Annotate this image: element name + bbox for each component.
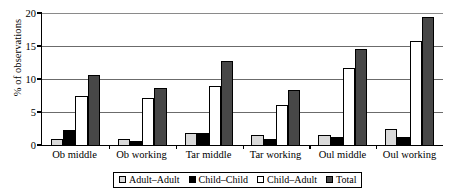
legend-swatch-icon bbox=[326, 176, 333, 183]
chart-legend: Adult–AdultChild–ChildChild–AdultTotal bbox=[113, 172, 362, 188]
y-axis-tick-label: 10 bbox=[26, 74, 37, 85]
legend-swatch-icon bbox=[189, 176, 196, 183]
y-axis-tick-label: 0 bbox=[31, 140, 36, 151]
x-axis-category-label: Oul middle bbox=[309, 149, 376, 160]
legend-label: Child–Child bbox=[199, 174, 248, 185]
x-axis-category-label: Ob middle bbox=[41, 149, 108, 160]
bar-chart: % of observations 05101520 Ob middleOb w… bbox=[0, 0, 449, 196]
x-axis-category-labels: Ob middleOb workingTar middleTar working… bbox=[41, 149, 443, 160]
x-axis-category-label: Oul working bbox=[376, 149, 443, 160]
y-axis-tick-label: 20 bbox=[26, 8, 37, 19]
y-axis-tick-label: 15 bbox=[26, 41, 37, 52]
legend-item[interactable]: Total bbox=[326, 174, 356, 185]
legend-swatch-icon bbox=[257, 176, 264, 183]
legend-item[interactable]: Adult–Adult bbox=[119, 174, 180, 185]
x-axis-category-label: Ob working bbox=[108, 149, 175, 160]
y-axis-title: % of observations bbox=[12, 3, 23, 113]
legend-swatch-icon bbox=[119, 176, 126, 183]
legend-label: Child–Adult bbox=[267, 174, 317, 185]
legend-label: Adult–Adult bbox=[129, 174, 180, 185]
legend-label: Total bbox=[336, 174, 356, 185]
legend-item[interactable]: Child–Adult bbox=[257, 174, 317, 185]
x-axis-category-label: Tar middle bbox=[175, 149, 242, 160]
x-axis-category-label: Tar working bbox=[242, 149, 309, 160]
y-axis-tick-label: 5 bbox=[31, 107, 36, 118]
x-axis-ticks bbox=[42, 13, 443, 145]
legend-item[interactable]: Child–Child bbox=[189, 174, 248, 185]
plot-area: 05101520 bbox=[41, 13, 443, 146]
